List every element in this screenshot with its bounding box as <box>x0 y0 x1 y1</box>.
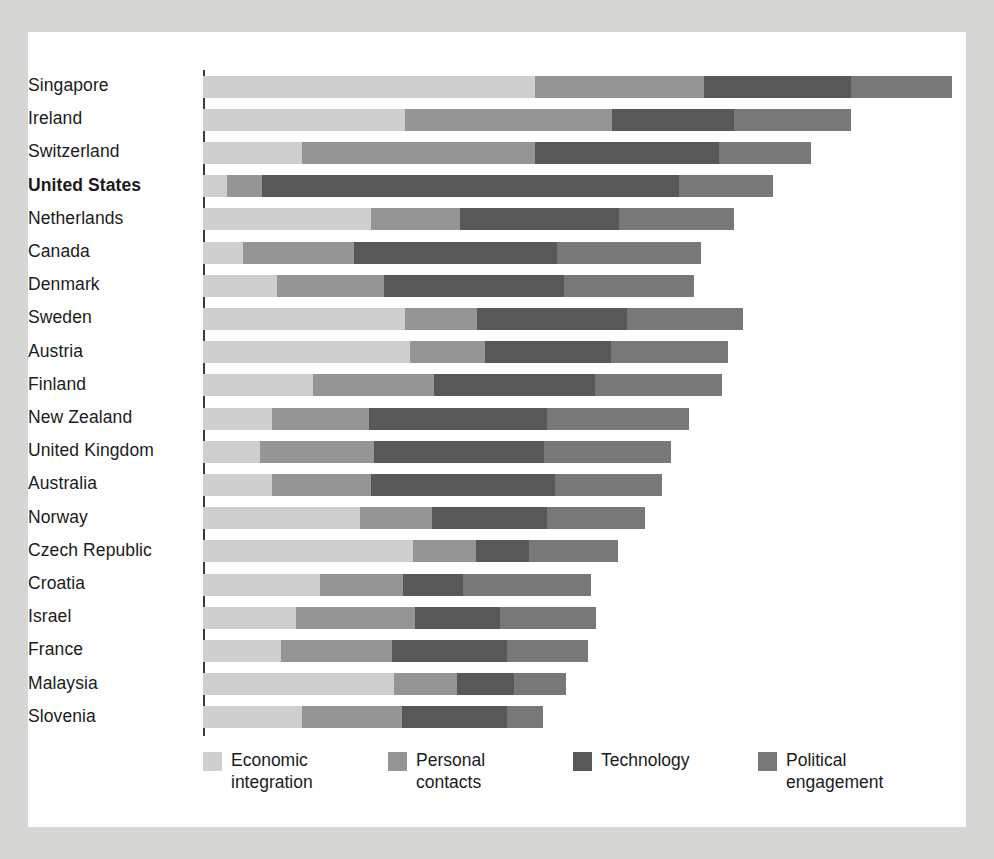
legend-item-political[interactable]: Political engagement <box>758 750 943 793</box>
legend-item-technology[interactable]: Technology <box>573 750 758 793</box>
bar-category-label: Ireland <box>28 110 196 128</box>
bar-segment-political <box>507 706 543 728</box>
bar-segment-personal <box>413 540 476 562</box>
bar-category-label: Slovenia <box>28 708 196 726</box>
bar-segment-technology <box>535 142 719 164</box>
table-row: United Kingdom <box>28 435 966 468</box>
bar-segment-economic <box>203 308 405 330</box>
bar-category-label: France <box>28 641 196 659</box>
stacked-bar <box>203 341 728 363</box>
bar-segment-technology <box>704 76 850 98</box>
bar-category-label: New Zealand <box>28 409 196 427</box>
table-row: United States <box>28 170 966 203</box>
bar-segment-economic <box>203 574 320 596</box>
stacked-bar-chart: SingaporeIrelandSwitzerlandUnited States… <box>28 32 966 827</box>
bar-category-label: Denmark <box>28 276 196 294</box>
stacked-bar <box>203 208 734 230</box>
legend-item-personal[interactable]: Personal contacts <box>388 750 573 793</box>
legend-label: Economic integration <box>231 750 313 793</box>
stacked-bar <box>203 175 773 197</box>
bar-segment-political <box>564 275 694 297</box>
bar-segment-economic <box>203 142 302 164</box>
table-row: Austria <box>28 336 966 369</box>
legend-item-economic[interactable]: Economic integration <box>203 750 388 793</box>
table-row: Sweden <box>28 302 966 335</box>
bar-segment-personal <box>320 574 402 596</box>
bar-segment-political <box>719 142 811 164</box>
chart-legend: Economic integrationPersonal contactsTec… <box>203 750 943 793</box>
stacked-bar <box>203 76 952 98</box>
bar-segment-personal <box>394 673 457 695</box>
bar-segment-economic <box>203 706 302 728</box>
bar-segment-technology <box>384 275 565 297</box>
bar-segment-technology <box>460 208 619 230</box>
bar-segment-technology <box>457 673 513 695</box>
stacked-bar <box>203 540 618 562</box>
bar-segment-technology <box>402 706 507 728</box>
bar-segment-technology <box>485 341 611 363</box>
legend-label: Political engagement <box>786 750 883 793</box>
bar-segment-economic <box>203 640 281 662</box>
bar-segment-personal <box>227 175 262 197</box>
bar-segment-economic <box>203 242 243 264</box>
table-row: Israel <box>28 601 966 634</box>
bar-category-label: United States <box>28 177 196 195</box>
bar-category-label: Malaysia <box>28 675 196 693</box>
bar-segment-personal <box>296 607 415 629</box>
table-row: Singapore <box>28 70 966 103</box>
table-row: France <box>28 634 966 667</box>
bar-category-label: United Kingdom <box>28 442 196 460</box>
bar-segment-personal <box>302 142 535 164</box>
bar-category-label: Croatia <box>28 575 196 593</box>
stacked-bar <box>203 706 543 728</box>
bar-segment-political <box>500 607 596 629</box>
legend-swatch-personal-icon <box>388 752 407 771</box>
bar-segment-personal <box>405 109 612 131</box>
bar-segment-economic <box>203 540 413 562</box>
bar-segment-political <box>547 507 645 529</box>
bar-segment-technology <box>477 308 626 330</box>
bar-segment-personal <box>371 208 460 230</box>
table-row: Croatia <box>28 568 966 601</box>
table-row: New Zealand <box>28 402 966 435</box>
stacked-bar <box>203 308 743 330</box>
table-row: Ireland <box>28 103 966 136</box>
bar-segment-technology <box>612 109 734 131</box>
bar-segment-political <box>557 242 700 264</box>
table-row: Finland <box>28 369 966 402</box>
bar-category-label: Austria <box>28 343 196 361</box>
stacked-bar <box>203 242 701 264</box>
table-row: Czech Republic <box>28 535 966 568</box>
bar-category-label: Australia <box>28 475 196 493</box>
legend-label: Personal contacts <box>416 750 485 793</box>
bar-segment-personal <box>272 408 370 430</box>
bar-segment-economic <box>203 208 371 230</box>
bar-segment-personal <box>260 441 374 463</box>
bar-segment-personal <box>281 640 392 662</box>
bar-segment-technology <box>415 607 500 629</box>
bar-segment-technology <box>392 640 507 662</box>
stacked-bar <box>203 142 811 164</box>
legend-swatch-political-icon <box>758 752 777 771</box>
bar-segment-economic <box>203 275 277 297</box>
bar-segment-economic <box>203 109 405 131</box>
bar-segment-political <box>679 175 773 197</box>
bar-category-label: Finland <box>28 376 196 394</box>
table-row: Canada <box>28 236 966 269</box>
bar-category-label: Switzerland <box>28 143 196 161</box>
stacked-bar <box>203 640 588 662</box>
bar-segment-economic <box>203 507 360 529</box>
bar-category-label: Netherlands <box>28 210 196 228</box>
bar-segment-economic <box>203 76 535 98</box>
bar-segment-political <box>611 341 728 363</box>
bar-segment-political <box>514 673 567 695</box>
stacked-bar <box>203 408 689 430</box>
bar-segment-technology <box>371 474 555 496</box>
bar-segment-political <box>529 540 617 562</box>
table-row: Australia <box>28 468 966 501</box>
stacked-bar <box>203 109 851 131</box>
bar-segment-technology <box>434 374 595 396</box>
bar-category-label: Sweden <box>28 309 196 327</box>
stacked-bar <box>203 474 662 496</box>
table-row: Netherlands <box>28 203 966 236</box>
